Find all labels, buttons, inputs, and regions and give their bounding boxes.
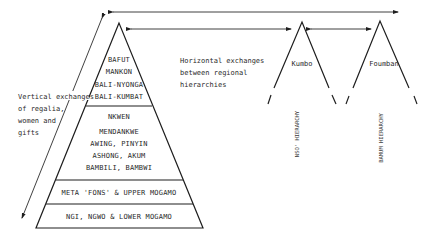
tier-line: BAMBILI, BAMBWI	[86, 164, 152, 172]
note-line: hierarchies	[180, 81, 226, 89]
tier-line: BALI-KUMBAT	[95, 93, 144, 101]
foumban-left-continuation	[346, 96, 349, 104]
tier-line: META 'FONS' & UPPER MOGAMO	[62, 189, 177, 197]
kumbo-label: Kumbo	[291, 60, 312, 68]
exchange-hierarchy-diagram: BAFUT MANKON BALI-NYONGA BALI-KUMBAT NKW…	[0, 0, 434, 247]
kumbo-hierarchy: Kumbo NSO' HIERARCHY	[268, 22, 336, 157]
tier-line: BAFUT	[108, 56, 131, 64]
kumbo-left-continuation	[268, 95, 271, 104]
note-line: Vertical exchanges	[18, 93, 94, 101]
kumbo-right-continuation	[332, 95, 336, 104]
foumban-right-continuation	[414, 96, 417, 104]
tier-line: NGI, NGWO & LOWER MOGAMO	[66, 213, 172, 221]
note-line: women and	[18, 117, 56, 125]
foumban-label: Foumban	[369, 60, 399, 68]
note-line: gifts	[18, 129, 39, 137]
foumban-hierarchy: Foumban BAMUM HIERARCHY	[346, 21, 417, 163]
tier-line: MANKON	[106, 68, 133, 76]
bamum-hierarchy-label: BAMUM HIERARCHY	[378, 112, 384, 162]
main-pyramid-outline	[36, 23, 203, 228]
tier-bottom: NGI, NGWO & LOWER MOGAMO	[66, 213, 172, 221]
kumbo-triangle	[274, 22, 329, 88]
note-line: between regional	[180, 69, 247, 77]
tier-top: BAFUT MANKON BALI-NYONGA BALI-KUMBAT	[95, 56, 144, 101]
horizontal-exchange-note: Horizontal exchanges between regional hi…	[180, 57, 264, 89]
note-line: Horizontal exchanges	[180, 57, 264, 65]
foumban-triangle	[353, 21, 409, 88]
tier-line: ASHONG, AKUM	[93, 152, 146, 160]
tier-line: NKWEN	[108, 113, 130, 121]
tier-line: AWING, PINYIN	[90, 140, 147, 148]
tier-line: MENDANKWE	[99, 128, 139, 136]
tier-lower: META 'FONS' & UPPER MOGAMO	[62, 189, 177, 197]
nso-hierarchy-label: NSO' HIERARCHY	[294, 110, 300, 157]
note-line: of regalia,	[18, 105, 64, 113]
tier-middle: NKWEN MENDANKWE AWING, PINYIN ASHONG, AK…	[86, 113, 152, 172]
tier-line: BALI-NYONGA	[95, 81, 144, 89]
